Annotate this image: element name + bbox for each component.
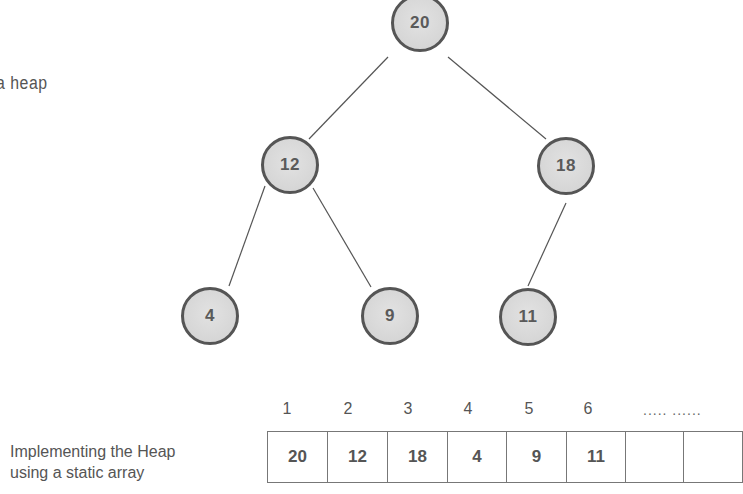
- array-caption-line-2: using a static array: [10, 462, 175, 483]
- array-cell-value: 18: [408, 447, 427, 467]
- array-cell: 20: [268, 432, 328, 482]
- array-cell-value: 11: [587, 447, 605, 467]
- array-cell-value: 12: [348, 447, 367, 467]
- array-caption: Implementing the Heap using a static arr…: [10, 441, 175, 483]
- array-index-row: 1 2 3 4 5 6 ..... ......: [267, 400, 742, 422]
- node-value: 4: [205, 306, 215, 326]
- node-value: 12: [280, 155, 300, 175]
- node-value: 9: [385, 306, 395, 326]
- tree-caption: a heap: [0, 73, 48, 94]
- node-value: 20: [410, 13, 430, 33]
- array-cell: 18: [388, 432, 448, 482]
- array-cell-value: 4: [472, 447, 481, 467]
- tree-node-leaf: 4: [181, 287, 239, 345]
- tree-node-left-child: 12: [261, 136, 319, 194]
- array-cell: 11: [567, 432, 626, 482]
- array-index: 2: [344, 400, 353, 418]
- edge-20-12: [309, 57, 388, 139]
- tree-node-leaf: 11: [499, 288, 557, 346]
- array-cell-value: 20: [288, 447, 307, 467]
- node-value: 11: [519, 307, 538, 327]
- edge-20-18: [448, 57, 546, 139]
- array-cell-empty: [684, 432, 743, 482]
- array-index: 4: [464, 400, 473, 418]
- array-index: 3: [404, 400, 413, 418]
- array-index: 1: [283, 400, 292, 418]
- edge-18-11: [528, 203, 566, 286]
- node-value: 18: [556, 156, 576, 176]
- array-cell: 12: [328, 432, 388, 482]
- array-caption-line-1: Implementing the Heap: [10, 441, 175, 462]
- array-cell: 9: [507, 432, 567, 482]
- array-cell-value: 9: [532, 447, 541, 467]
- array-index: 6: [584, 400, 593, 418]
- edge-12-4: [229, 186, 265, 286]
- array-index-ellipsis: ..... ......: [643, 402, 702, 418]
- static-array: 20 12 18 4 9 11: [267, 431, 743, 483]
- tree-node-leaf: 9: [361, 287, 419, 345]
- array-cell-empty: [626, 432, 684, 482]
- edge-12-9: [313, 188, 371, 287]
- array-index: 5: [525, 400, 534, 418]
- tree-node-right-child: 18: [537, 137, 595, 195]
- array-cell: 4: [448, 432, 507, 482]
